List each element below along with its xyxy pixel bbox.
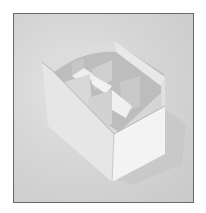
photo-frame xyxy=(13,13,194,203)
paper-box-illustration xyxy=(14,14,194,203)
